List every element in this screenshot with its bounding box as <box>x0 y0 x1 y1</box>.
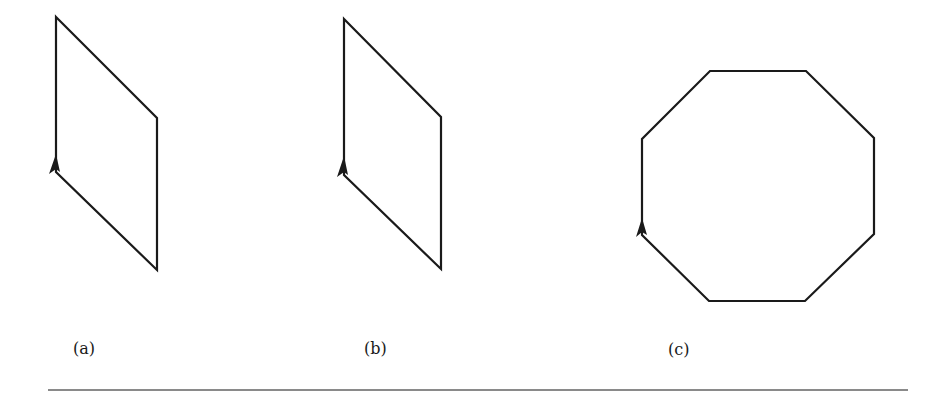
parallelogram-a <box>56 17 157 270</box>
panel-label-b: (b) <box>364 341 387 357</box>
parallelogram-b <box>344 19 441 269</box>
panel-label-c: (c) <box>668 342 689 358</box>
horizontal-rule <box>48 389 908 391</box>
panel-label-a: (a) <box>73 341 95 357</box>
octagon-c <box>642 71 874 301</box>
panel-b <box>337 19 441 269</box>
arrow-up-icon <box>49 154 60 174</box>
panel-c <box>636 71 874 301</box>
panel-a <box>49 17 157 270</box>
figure-canvas <box>0 0 927 394</box>
arrow-up-icon <box>337 156 348 177</box>
